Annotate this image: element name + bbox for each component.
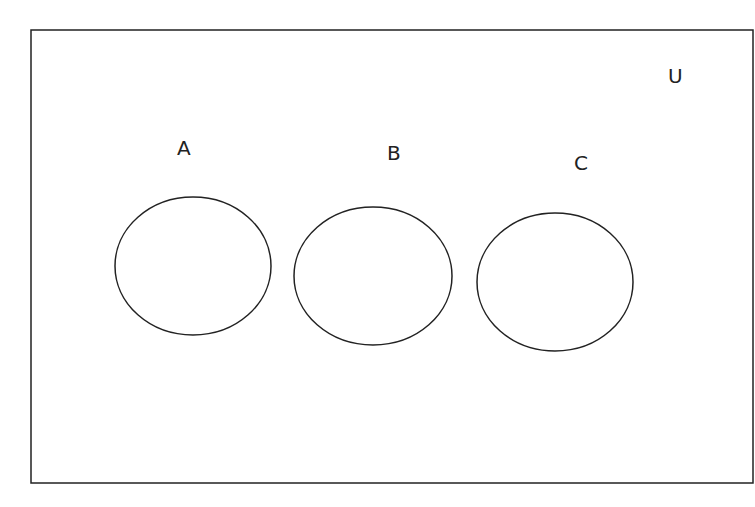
set-b-label: B <box>387 141 401 165</box>
set-c-label: C <box>574 151 588 175</box>
set-a-label: A <box>177 136 191 160</box>
universe-rectangle <box>31 30 753 483</box>
universe-label: U <box>668 64 683 88</box>
venn-diagram: U A B C <box>0 0 755 507</box>
set-c-circle <box>477 213 633 351</box>
set-b-circle <box>294 207 452 345</box>
set-a-circle <box>115 197 271 335</box>
